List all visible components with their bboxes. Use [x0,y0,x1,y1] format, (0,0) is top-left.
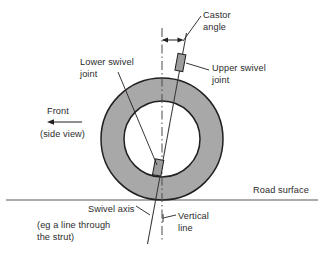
upper-swivel-joint-label: Upper swivel joint [212,63,266,86]
front-direction-arrow [47,119,82,124]
upper-swivel-joint-block [175,53,186,71]
upper-swivel-joint-leader-line [186,63,209,70]
castor-angle-arrow [162,38,184,43]
side-view-label: (side view) [40,129,85,141]
castor-angle-label: Castor angle [203,10,231,33]
lower-swivel-joint-label: Lower swivel joint [80,57,134,80]
vertical-line-label: Vertical line [178,211,209,234]
castor-angle-diagram: Castor angle Upper swivel joint Lower sw… [0,0,323,261]
swivel-axis-label: Swivel axis [88,204,135,216]
front-label: Front [47,106,69,118]
castor-angle-leader-line [183,16,201,41]
strut-note-label: (eg a line through the strut) [37,220,110,243]
vertical-line-leader-line [163,215,176,218]
road-surface-label: Road surface [253,185,309,197]
swivel-axis-leader-line [136,206,150,215]
